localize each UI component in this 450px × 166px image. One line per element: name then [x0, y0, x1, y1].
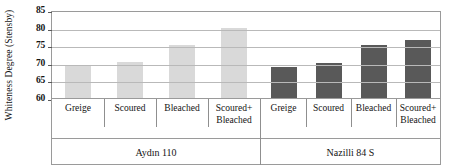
category-label-line2: Bleached	[396, 114, 440, 126]
bar-aydın-110-scoured	[117, 62, 143, 98]
axis-tick-80	[48, 30, 52, 31]
category-label-bleached-g2: Bleached	[351, 99, 396, 139]
category-separator	[156, 99, 157, 127]
y-tick-label-60: 60	[36, 94, 45, 104]
group-label-band: Aydın 110 Nazilli 84 S	[51, 139, 441, 165]
category-label-line1: Scoured+	[208, 102, 260, 114]
y-axis-tick-labels: 606570758085	[20, 11, 48, 99]
category-label-band: GreigeScouredBleachedScoured+BleachedGre…	[51, 99, 441, 139]
category-label-line1: Scoured+	[396, 102, 440, 114]
category-separator	[306, 99, 307, 127]
y-tick-label-75: 75	[36, 41, 45, 51]
category-label-scoured_bleached-g2: Scoured+Bleached	[396, 99, 440, 139]
axis-tick-85	[48, 12, 52, 13]
category-label-scoured-g1: Scoured	[104, 99, 156, 139]
bars-layer	[52, 12, 440, 98]
category-separator	[396, 99, 397, 127]
axis-tick-65	[48, 82, 52, 83]
category-separator	[208, 99, 209, 127]
bar-nazilli-84-s-bleached	[361, 45, 387, 99]
category-label-line2: Bleached	[208, 114, 260, 126]
y-tick-label-70: 70	[36, 59, 45, 69]
axis-tick-75	[48, 47, 52, 48]
plot-area	[51, 11, 441, 99]
gridline-75	[52, 47, 440, 48]
y-tick-label-85: 85	[36, 6, 45, 16]
group-label-nazilli-84-s: Nazilli 84 S	[261, 139, 440, 165]
bar-nazilli-84-s-scoured	[316, 63, 342, 98]
category-label-greige-g1: Greige	[52, 99, 104, 139]
category-label-greige-g2: Greige	[261, 99, 306, 139]
category-separator	[351, 99, 352, 127]
gridline-80	[52, 30, 440, 31]
bar-chart: Whiteness Degree (Stensby) 606570758085 …	[0, 0, 450, 166]
category-label-scoured_bleached-g1: Scoured+Bleached	[208, 99, 260, 139]
y-tick-label-80: 80	[36, 24, 45, 34]
category-separator	[104, 99, 105, 127]
bar-aydın-110-bleached	[169, 45, 195, 98]
category-label-bleached-g1: Bleached	[156, 99, 208, 139]
group-label-aydin-110: Aydın 110	[52, 139, 260, 165]
gridline-70	[52, 65, 440, 66]
y-axis-title-text: Whiteness Degree (Stensby)	[4, 10, 14, 121]
group-label-text: Nazilli 84 S	[327, 147, 375, 158]
group-boundary-separator	[260, 99, 261, 139]
category-label-scoured-g2: Scoured	[306, 99, 351, 139]
axis-tick-70	[48, 65, 52, 66]
y-axis-title: Whiteness Degree (Stensby)	[0, 0, 18, 130]
group-label-text: Aydın 110	[135, 147, 176, 158]
gridline-65	[52, 82, 440, 83]
bar-aydın-110-scoured-bleached	[221, 28, 247, 98]
bar-nazilli-84-s-scoured-bleached	[405, 40, 431, 98]
y-tick-label-65: 65	[36, 77, 45, 87]
